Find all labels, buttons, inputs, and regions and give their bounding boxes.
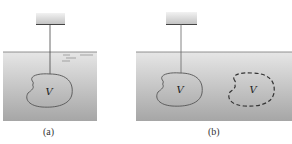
panel-b: V V bbox=[136, 12, 292, 121]
caption-a: (a) bbox=[43, 126, 54, 137]
support-a bbox=[36, 13, 65, 24]
water-tank-b bbox=[136, 52, 292, 121]
support-b bbox=[166, 12, 197, 24]
diagram-canvas: V V V bbox=[0, 0, 292, 144]
panel-a: V bbox=[3, 13, 97, 121]
caption-b: (b) bbox=[208, 126, 220, 137]
